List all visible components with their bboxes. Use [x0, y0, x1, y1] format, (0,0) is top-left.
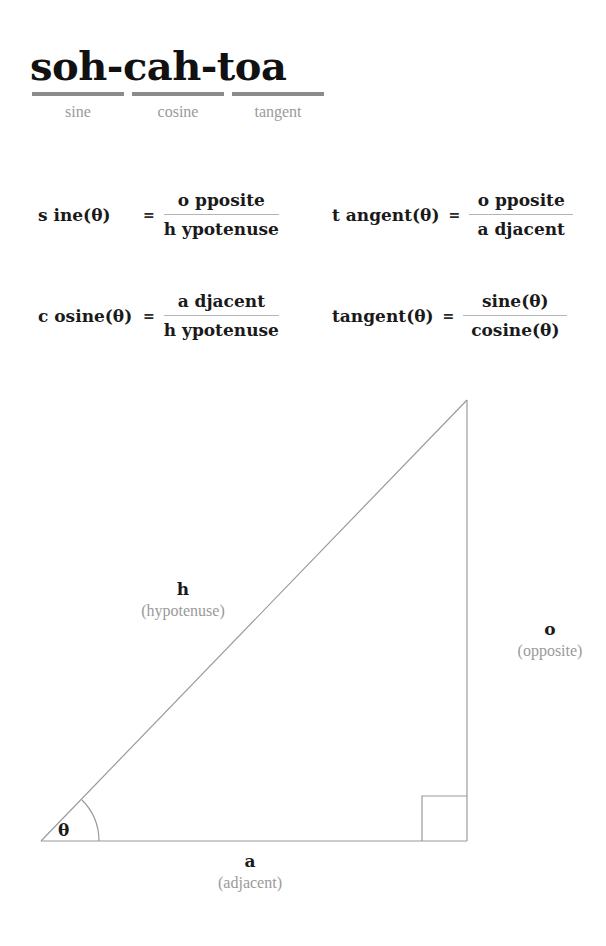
formula-tangent-fraction: o pposite a djacent	[469, 188, 573, 241]
formula-cosine-lhs: c osine(θ)	[38, 306, 134, 326]
mnemonic-label-tangent: tangent	[232, 103, 324, 121]
formula-sine-fraction: o pposite h ypotenuse	[164, 188, 279, 241]
formula-sine-numerator: o pposite	[178, 188, 265, 212]
formula-tangent-fraction-bar	[469, 214, 573, 215]
mnemonic-underline-cah	[132, 92, 224, 96]
formula-sine: s ine(θ) = o pposite h ypotenuse	[38, 188, 279, 241]
formula-tangent-numerator: o pposite	[478, 188, 565, 212]
formula-tangent-ratio-lhs: tangent(θ)	[332, 306, 434, 326]
label-hypotenuse-word: (hypotenuse)	[108, 600, 258, 622]
page-title: soh-cah-toa	[30, 42, 330, 90]
formula-tangent-ratio-fraction: sine(θ) cosine(θ)	[463, 289, 567, 342]
label-opposite-word: (opposite)	[495, 640, 605, 662]
label-hypotenuse-symbol: h	[108, 578, 258, 600]
formula-sine-fraction-bar	[164, 214, 279, 215]
right-angle-marker	[422, 796, 467, 841]
formula-cosine-numerator: a djacent	[178, 289, 265, 313]
mnemonic-underline-soh	[32, 92, 124, 96]
formula-cosine-equals: =	[143, 308, 155, 324]
formula-cosine-denominator: h ypotenuse	[164, 318, 279, 342]
mnemonic-label-group: sine cosine tangent	[30, 103, 330, 125]
label-adjacent-word: (adjacent)	[175, 872, 325, 894]
theta-angle-arc	[82, 800, 99, 841]
right-triangle-diagram: θ h (hypotenuse) o (opposite) a (adjacen…	[0, 380, 606, 880]
mnemonic-underline-group	[30, 92, 330, 100]
label-opposite-symbol: o	[495, 618, 605, 640]
formula-tangent-ratio-denominator: cosine(θ)	[471, 318, 559, 342]
mnemonic-label-cosine: cosine	[132, 103, 224, 121]
formula-tangent-equals: =	[449, 207, 461, 223]
label-theta: θ	[58, 820, 69, 840]
label-hypotenuse: h (hypotenuse)	[108, 578, 258, 622]
formula-sine-equals: =	[143, 207, 155, 223]
formula-tangent-denominator: a djacent	[478, 217, 565, 241]
mnemonic-underline-toa	[232, 92, 324, 96]
formula-tangent-ratio: tangent(θ) = sine(θ) cosine(θ)	[332, 289, 567, 342]
formula-tangent-ratio-numerator: sine(θ)	[482, 289, 549, 313]
formula-sine-denominator: h ypotenuse	[164, 217, 279, 241]
formula-sine-lhs: s ine(θ)	[38, 205, 134, 225]
label-adjacent: a (adjacent)	[175, 850, 325, 894]
formula-cosine-fraction-bar	[164, 315, 279, 316]
formula-tangent-ratio-equals: =	[443, 308, 455, 324]
label-opposite: o (opposite)	[495, 618, 605, 662]
formula-cosine: c osine(θ) = a djacent h ypotenuse	[38, 289, 279, 342]
formula-tangent-ratio-fraction-bar	[463, 315, 567, 316]
mnemonic-title-block: soh-cah-toa sine cosine tangent	[30, 42, 330, 125]
formula-tangent: t angent(θ) = o pposite a djacent	[332, 188, 573, 241]
mnemonic-label-sine: sine	[32, 103, 124, 121]
formula-cosine-fraction: a djacent h ypotenuse	[164, 289, 279, 342]
formula-tangent-lhs: t angent(θ)	[332, 205, 440, 225]
label-adjacent-symbol: a	[175, 850, 325, 872]
